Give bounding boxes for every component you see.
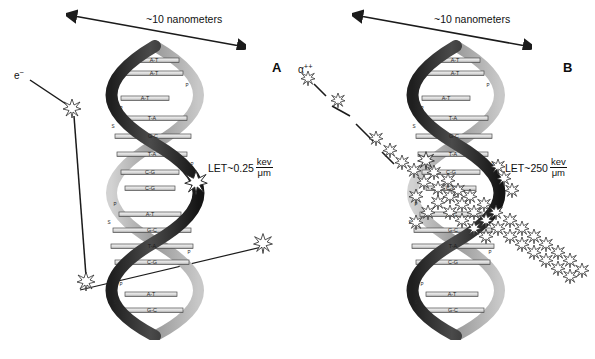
ionization-star: [417, 175, 431, 190]
ionization-star: [491, 159, 505, 174]
ionization-star: [563, 253, 577, 268]
ionization-star: [489, 205, 503, 220]
ionization-star: [467, 221, 481, 236]
ionization-star: [443, 205, 457, 220]
ionization-star: [455, 213, 469, 228]
ionization-star: [563, 269, 577, 284]
ionization-star: [503, 229, 517, 244]
ionization-star: [551, 245, 565, 260]
let-value: LET~0.25: [208, 162, 254, 174]
ionization-star: [77, 272, 95, 291]
ionization-star: [539, 253, 553, 268]
ionization-star: [301, 71, 315, 86]
ionization-star: [467, 205, 481, 220]
ionization-star: [515, 221, 529, 236]
ionization-star: [477, 197, 491, 212]
ionization-star: [421, 205, 435, 220]
ionization-star: [431, 181, 445, 196]
panel-a-low-let: ~10 nanometers A e−: [0, 0, 297, 359]
let-units: kevμm: [550, 157, 567, 179]
let-label-b: LET~250kevμm: [505, 158, 567, 180]
ionization-events-a: [0, 0, 297, 359]
let-units: kevμm: [256, 157, 273, 179]
ionization-star: [575, 263, 589, 278]
ionization-star: [491, 221, 505, 236]
figure-root: ~10 nanometers A e−: [0, 0, 595, 359]
ionization-star: [503, 213, 517, 228]
ionization-star: [185, 171, 208, 195]
ionization-star: [395, 155, 409, 170]
ionization-star: [383, 143, 397, 158]
let-label-a: LET~0.25kevμm: [208, 158, 273, 180]
ionization-star: [369, 131, 383, 146]
ionization-events-b: [298, 0, 595, 359]
ionization-star: [551, 261, 565, 276]
ionization-star: [479, 213, 493, 228]
ionization-star: [527, 245, 541, 260]
ionization-star: [407, 163, 421, 178]
ionization-star: [539, 237, 553, 252]
ionization-star: [63, 99, 81, 118]
ionization-star: [331, 93, 345, 108]
panel-b-high-let: ~10 nanometers B α++: [298, 0, 595, 359]
ionization-star: [409, 189, 423, 204]
ionization-star: [505, 183, 519, 198]
ionization-star: [515, 237, 529, 252]
let-value: LET~250: [505, 162, 548, 174]
ionization-star: [418, 152, 435, 170]
ionization-star: [479, 229, 493, 244]
ionization-star: [527, 229, 541, 244]
ionization-star: [409, 215, 423, 230]
ionization-star: [254, 234, 273, 254]
